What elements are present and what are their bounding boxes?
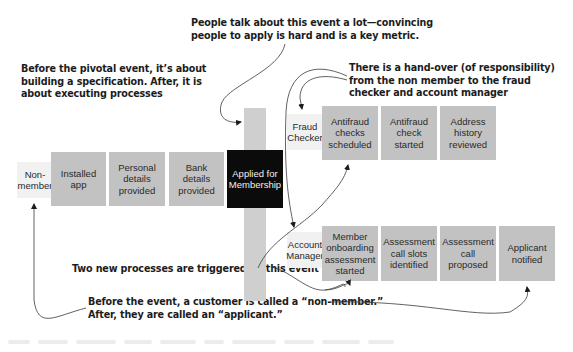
arrow-handover-fraud [300, 77, 347, 109]
event-member-onboarding-assessment-started: Member onboarding assessment started [322, 226, 378, 281]
arrow-to-onboarding [325, 284, 350, 290]
figure-caption-faded [8, 340, 438, 346]
actor-non-member: Non- member [17, 162, 53, 198]
annotation-pivotal-event: Before the pivotal event, it’s about bui… [21, 63, 206, 101]
event-address-history-reviewed: Address history reviewed [440, 106, 496, 160]
actor-fraud-checker: Fraud Checker [287, 114, 323, 150]
pivotal-event-applied-for-membership: Applied for Membership [227, 150, 283, 208]
actor-account-manager: Account Manager [287, 232, 323, 268]
event-antifraud-check-started: Antifraud check started [381, 106, 437, 160]
event-assessment-call-slots-identified: Assessment call slots identified [381, 226, 437, 281]
event-assessment-call-proposed: Assessment call proposed [440, 226, 496, 281]
event-storming-diagram: Before the pivotal event, it’s about bui… [0, 0, 573, 352]
event-applicant-notified: Applicant notified [499, 226, 555, 281]
event-bank-details-provided: Bank details provided [169, 152, 224, 206]
event-installed-app: Installed app [51, 152, 106, 206]
annotation-handover: There is a hand-over (of responsibility)… [349, 62, 555, 100]
arrow-naming-non-member [34, 204, 86, 318]
event-personal-details-provided: Personal details provided [109, 152, 165, 206]
annotation-two-processes: Two new processes are triggered by this … [72, 263, 319, 276]
annotation-naming: Before the event, a customer is called a… [88, 296, 383, 321]
annotation-people-talk: People talk about this event a lot—convi… [191, 17, 433, 42]
event-antifraud-checks-scheduled: Antifraud checks scheduled [322, 106, 378, 160]
